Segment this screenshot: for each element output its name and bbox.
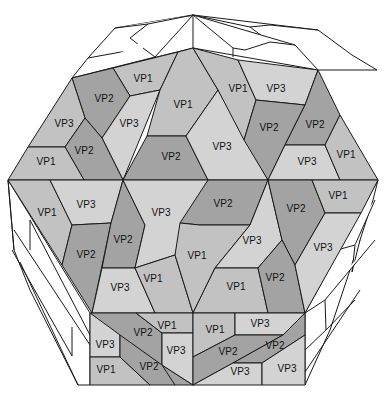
label-vp3: VP3 <box>314 242 333 253</box>
label-vp3: VP3 <box>77 199 96 210</box>
label-vp1: VP1 <box>337 149 356 160</box>
label-vp2: VP2 <box>214 198 233 209</box>
label-vp2: VP2 <box>77 249 96 260</box>
label-vp1: VP1 <box>37 156 56 167</box>
label-vp1: VP1 <box>134 73 153 84</box>
label-vp1: VP1 <box>206 324 225 335</box>
label-vp2: VP2 <box>134 327 153 338</box>
label-vp3: VP3 <box>243 235 262 246</box>
label-vp1: VP1 <box>144 273 163 284</box>
label-vp2: VP2 <box>140 361 159 372</box>
label-vp3: VP3 <box>251 318 270 329</box>
label-vp3: VP3 <box>152 207 171 218</box>
label-vp2: VP2 <box>306 119 325 130</box>
label-vp2: VP2 <box>95 93 114 104</box>
label-vp2: VP2 <box>162 151 181 162</box>
label-vp1: VP1 <box>174 99 193 110</box>
label-vp3: VP3 <box>298 156 317 167</box>
label-vp1: VP1 <box>38 207 57 218</box>
label-vp3: VP3 <box>167 345 186 356</box>
label-vp3: VP3 <box>55 118 74 129</box>
label-vp1: VP1 <box>227 281 246 292</box>
label-vp2: VP2 <box>287 203 306 214</box>
label-vp1: VP1 <box>97 364 116 375</box>
label-vp2: VP2 <box>266 340 285 351</box>
label-vp3: VP3 <box>96 339 115 350</box>
label-vp3: VP3 <box>278 363 297 374</box>
label-vp2: VP2 <box>260 122 279 133</box>
label-vp2: VP2 <box>114 234 133 245</box>
label-vp2: VP2 <box>266 272 285 283</box>
label-vp2: VP2 <box>219 346 238 357</box>
label-vp3: VP3 <box>267 83 286 94</box>
label-vp1: VP1 <box>158 320 177 331</box>
label-vp3: VP3 <box>213 141 232 152</box>
label-vp3: VP3 <box>111 282 130 293</box>
label-vp3: VP3 <box>231 366 250 377</box>
capsid-diagram: VP1VP2VP3VP3VP2VP1VP1VP2VP3VP1VP3VP2VP2V… <box>0 0 386 393</box>
label-vp1: VP1 <box>229 83 248 94</box>
label-vp1: VP1 <box>329 190 348 201</box>
label-vp2: VP2 <box>75 145 94 156</box>
label-vp1: VP1 <box>188 250 207 261</box>
label-vp3: VP3 <box>120 118 139 129</box>
